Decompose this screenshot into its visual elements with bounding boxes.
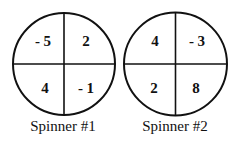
spinner-1-bottom-left-value: 4 <box>41 80 49 96</box>
spinner-2-top-left-value: 4 <box>151 33 159 49</box>
spinner-2-bottom-left-value: 2 <box>150 80 158 96</box>
spinner-2: 4 - 3 2 8 Spinner #2 <box>124 13 227 135</box>
spinners-diagram: - 5 2 4 - 1 Spinner #1 4 - 3 2 8 Spinner… <box>0 0 240 141</box>
spinner-2-caption: Spinner #2 <box>142 118 207 134</box>
spinner-2-top-right-value: - 3 <box>189 33 205 49</box>
spinner-1-top-left-value: - 5 <box>35 33 51 49</box>
spinner-1-top-right-value: 2 <box>82 33 90 49</box>
spinner-1: - 5 2 4 - 1 Spinner #1 <box>13 13 115 134</box>
spinner-1-caption: Spinner #1 <box>30 118 95 134</box>
spinner-2-bottom-right-value: 8 <box>192 80 200 96</box>
spinner-1-bottom-right-value: - 1 <box>78 80 94 96</box>
